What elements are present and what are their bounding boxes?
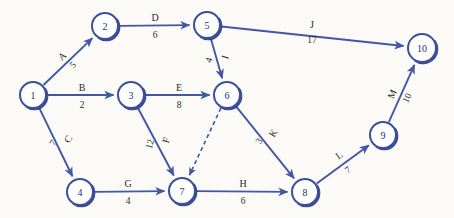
edge-4-to-7 <box>94 191 164 192</box>
edge-label-name-D: D <box>151 12 158 23</box>
edge-label-value-D: 6 <box>153 30 158 40</box>
edge-label-value-J: 17 <box>307 35 317 45</box>
edge-label-name-L: L <box>333 149 344 161</box>
edge-7-to-8 <box>196 191 287 192</box>
node-6[interactable]: 6 <box>214 82 241 109</box>
edge-label-name-M: M <box>385 88 399 101</box>
node-9[interactable]: 9 <box>370 122 397 149</box>
node-label-4: 4 <box>78 187 83 198</box>
edge-label-value-G: 4 <box>126 196 131 206</box>
node-4[interactable]: 4 <box>67 179 94 206</box>
edge-2-to-5 <box>119 25 189 26</box>
node-label-10: 10 <box>417 43 427 54</box>
edge-label-name-H: H <box>239 178 246 189</box>
edge-label-value-B: 2 <box>80 100 85 110</box>
edge-label-name-A: A <box>56 49 69 63</box>
edge-label-value-I: 4 <box>204 56 215 64</box>
node-1[interactable]: 1 <box>20 82 47 109</box>
edge-label-value-L: 7 <box>343 164 353 175</box>
edge-6-to-8 <box>236 106 294 178</box>
edge-label-value-K: 3 <box>254 136 265 146</box>
node-3[interactable]: 3 <box>118 82 145 109</box>
node-label-9: 9 <box>381 130 386 141</box>
node-label-5: 5 <box>205 20 210 31</box>
network-diagram-svg: A5B2C7D6E8F12G4H6I4J17K3L7M10 1234567891… <box>0 0 454 218</box>
node-label-1: 1 <box>31 90 36 101</box>
edge-label-name-J: J <box>310 19 314 30</box>
edge-label-name-C: C <box>62 133 75 145</box>
edge-label-name-B: B <box>79 82 86 93</box>
node-8[interactable]: 8 <box>292 179 319 206</box>
node-2[interactable]: 2 <box>92 13 119 40</box>
node-5[interactable]: 5 <box>194 12 221 39</box>
node-7[interactable]: 7 <box>169 178 196 205</box>
network-diagram-canvas: A5B2C7D6E8F12G4H6I4J17K3L7M10 1234567891… <box>0 0 454 218</box>
edge-label-name-G: G <box>124 178 131 189</box>
edge-label-name-F: F <box>160 135 172 144</box>
edge-label-name-I: I <box>219 54 230 61</box>
node-label-2: 2 <box>103 21 108 32</box>
edge-5-to-6 <box>211 39 222 78</box>
edge-1-to-2 <box>43 38 92 85</box>
edge-label-value-H: 6 <box>241 196 246 206</box>
node-label-3: 3 <box>129 90 134 101</box>
node-label-6: 6 <box>225 90 230 101</box>
edge-8-to-9 <box>317 145 369 183</box>
edge-label-value-E: 8 <box>177 100 182 110</box>
edge-6-to-7 <box>189 108 220 175</box>
edge-label-name-K: K <box>266 126 280 139</box>
node-10[interactable]: 10 <box>408 34 437 63</box>
node-label-7: 7 <box>180 186 185 197</box>
node-label-8: 8 <box>303 187 308 198</box>
edge-label-value-A: 5 <box>68 60 78 71</box>
edge-label-name-E: E <box>176 82 182 93</box>
